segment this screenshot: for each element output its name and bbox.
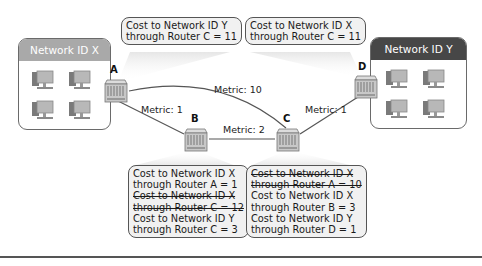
network-x-box: Network ID X (18, 38, 111, 130)
routing-bubble-router-a: Cost to Network ID Y through Router C = … (121, 17, 242, 45)
router-b-icon (183, 128, 209, 152)
router-c-label: C (283, 113, 290, 124)
computer-icon (422, 68, 448, 90)
bubble-line: Cost to Network ID Y (126, 20, 237, 31)
bubble-line: Cost to Network ID X (133, 168, 244, 179)
computer-icon (31, 99, 57, 121)
bubble-line: Cost to Network ID X (251, 190, 362, 201)
computer-icon (422, 98, 448, 120)
bubble-line: through Router A = 1 (133, 179, 244, 190)
metric-c-d: Metric: 1 (305, 104, 347, 115)
bubble-line: Cost to Network ID Y (133, 213, 244, 224)
bubble-line: through Router B = 3 (251, 202, 362, 213)
bubble-line-struck: through Router C = 12 (133, 202, 244, 213)
bubble-line: Cost to Network ID Y (251, 213, 362, 224)
routing-bubble-router-c: Cost to Network ID X through Router A = … (246, 165, 367, 238)
bubble-line: through Router C = 11 (126, 31, 237, 42)
bubble-line-struck: Cost to Network ID X (251, 168, 362, 179)
metric-b-c: Metric: 2 (223, 124, 265, 135)
network-y-box: Network ID Y (370, 37, 467, 129)
routing-bubble-router-b: Cost to Network ID X through Router A = … (128, 165, 249, 238)
router-a-icon (103, 79, 129, 103)
router-d-icon (353, 75, 379, 99)
metric-a-c: Metric: 10 (214, 84, 262, 95)
network-y-label: Network ID Y (371, 38, 466, 60)
computer-icon (31, 69, 57, 91)
computer-icon (68, 99, 94, 121)
computer-icon (68, 69, 94, 91)
network-x-label: Network ID X (19, 39, 110, 61)
callout-wedge-c (250, 150, 354, 166)
link-c-d (300, 97, 358, 134)
router-a-label: A (110, 64, 118, 75)
router-c-icon (275, 128, 301, 152)
metric-a-b: Metric: 1 (141, 104, 183, 115)
router-d-label: D (358, 61, 366, 72)
callout-wedge-b (132, 150, 236, 166)
computer-icon (385, 68, 411, 90)
bubble-line: through Router C = 3 (133, 224, 244, 235)
routing-bubble-router-d: Cost to Network ID X through Router C = … (245, 17, 366, 45)
bubble-line: through Router D = 1 (251, 224, 362, 235)
bubble-line: Cost to Network ID X (250, 20, 361, 31)
computer-icon (385, 98, 411, 120)
bubble-line: through Router C = 11 (250, 31, 361, 42)
callout-wedge-d (250, 52, 362, 78)
router-b-label: B (191, 113, 199, 124)
callout-wedge-a (118, 52, 230, 82)
bottom-divider (0, 256, 482, 258)
bubble-line-struck: Cost to Network ID X (133, 190, 244, 201)
bubble-line-struck: through Router A = 10 (251, 179, 362, 190)
